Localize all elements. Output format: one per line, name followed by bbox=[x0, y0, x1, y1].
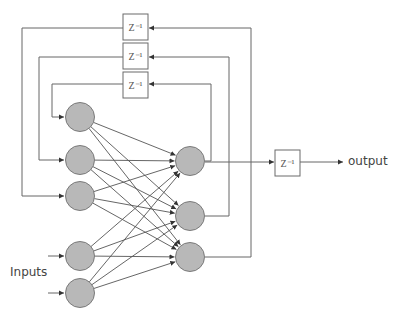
neuron-node-in3 bbox=[66, 182, 95, 211]
neuron-node-in4 bbox=[66, 242, 95, 271]
edge-in2-out1 bbox=[95, 160, 175, 161]
neuron-nodes bbox=[66, 103, 205, 308]
connection-edges bbox=[89, 122, 180, 288]
edge-in3-out3 bbox=[93, 203, 177, 250]
neuron-node-out3 bbox=[176, 243, 205, 272]
edge-in5-out2 bbox=[92, 225, 177, 285]
edge-in4-out3 bbox=[95, 256, 175, 257]
neuron-node-out2 bbox=[176, 202, 205, 231]
svg-text:Z⁻¹: Z⁻¹ bbox=[128, 22, 142, 33]
output-label: output bbox=[348, 154, 388, 168]
neuron-node-in1 bbox=[66, 103, 95, 132]
neuron-node-in2 bbox=[66, 146, 95, 175]
svg-text:Z⁻¹: Z⁻¹ bbox=[280, 158, 294, 169]
inputs-label: Inputs bbox=[10, 265, 47, 279]
rnn-diagram: Z⁻¹ Z⁻¹ Z⁻¹ Z⁻¹ bbox=[0, 0, 397, 321]
delay-box-2: Z⁻¹ bbox=[123, 43, 148, 69]
feedback-line-2 bbox=[149, 57, 229, 216]
svg-text:Z⁻¹: Z⁻¹ bbox=[128, 51, 142, 62]
svg-text:Z⁻¹: Z⁻¹ bbox=[128, 80, 142, 91]
neuron-node-in5 bbox=[66, 279, 95, 308]
delay-box-output: Z⁻¹ bbox=[275, 150, 300, 176]
neuron-node-out1 bbox=[176, 147, 205, 176]
delay-box-3: Z⁻¹ bbox=[123, 72, 148, 98]
delay-box-1: Z⁻¹ bbox=[123, 14, 148, 40]
feedback-line-1 bbox=[149, 84, 211, 161]
